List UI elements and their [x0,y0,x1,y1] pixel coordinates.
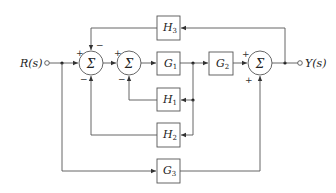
input-terminal [45,61,50,66]
wire-h2-to-s1 [91,76,157,135]
sigma-symbol: Σ [124,57,134,71]
wire-r-to-g3 [62,63,156,171]
sign-plus: + [245,75,253,85]
wire-g1-to-h1 [181,63,193,100]
wire-g1-to-h2 [181,100,193,135]
sign-plus: + [242,49,250,59]
sign-minus: − [118,74,126,84]
input-label: R(s) [19,57,43,70]
block-g3: G3 [157,159,180,183]
output-terminal [298,61,303,66]
summer-3: Σ + + [242,49,272,85]
wire-g3-to-s3 [180,76,260,171]
wire-h1-to-s2 [129,76,157,100]
sigma-symbol: Σ [86,57,96,71]
summer-2: Σ + − [114,48,141,84]
sigma-symbol: Σ [255,57,265,71]
block-diagram: R(s) Σ + − − Σ + − G1 G2 Σ + + Y( [0,0,336,193]
block-h2: H2 [157,123,180,147]
sign-plus: + [114,48,122,58]
sign-plus: + [76,48,84,58]
block-g2: G2 [209,52,233,75]
block-g1: G1 [157,52,180,75]
block-h1: H1 [157,88,180,111]
sign-minus: − [96,40,104,50]
block-h3: H3 [157,16,180,40]
summer-1: Σ + − − [76,40,104,84]
output-label: Y(s) [305,57,327,70]
sign-minus: − [80,74,88,84]
